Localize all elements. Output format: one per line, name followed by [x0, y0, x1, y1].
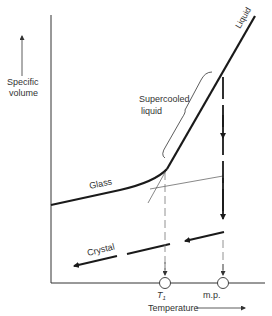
liquid-line — [167, 16, 255, 169]
mp-marker — [218, 278, 229, 289]
tg-marker — [160, 278, 171, 289]
tg-label: T1 — [157, 290, 166, 301]
crystal-line-segment-3 — [74, 256, 117, 266]
crystal-line-segment-2 — [127, 244, 170, 254]
y-axis-label-line1: Specific — [7, 77, 39, 87]
mp-label: m.p. — [203, 290, 221, 300]
glass-extension-line — [150, 176, 223, 189]
crystal-line-segment-1 — [185, 232, 224, 241]
y-axis-label-line2: volume — [9, 88, 38, 98]
supercooled-bracket — [163, 72, 212, 158]
x-axis-label: Temperature — [148, 303, 199, 313]
supercooled-label-line2: liquid — [141, 106, 162, 116]
glass-label: Glass — [88, 176, 113, 191]
supercooled-label-line1: Supercooled — [139, 94, 190, 104]
crystal-label: Crystal — [86, 241, 116, 257]
volume-temperature-diagram: Specific volume Liquid Supercooled liqui… — [0, 0, 272, 316]
